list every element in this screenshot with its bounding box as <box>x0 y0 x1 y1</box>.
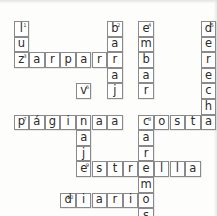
cell-letter: j <box>108 85 122 97</box>
crossword-cell[interactable]: r <box>138 146 154 162</box>
crossword-page: 1l2b4e5duame3zarparrbraae6vjrch7páginaa8… <box>0 0 217 216</box>
crossword-cell[interactable]: e <box>138 161 154 177</box>
crossword-cell[interactable]: t <box>107 161 123 177</box>
crossword-cell[interactable]: i <box>76 193 92 209</box>
crossword-cell[interactable]: a <box>138 68 154 84</box>
crossword-cell[interactable]: r <box>201 52 217 68</box>
crossword-cell[interactable]: l <box>170 161 186 177</box>
cell-letter: a <box>139 132 153 144</box>
crossword-cell[interactable]: m <box>138 37 154 53</box>
cell-letter: r <box>139 85 153 97</box>
crossword-cell[interactable]: i <box>60 115 76 131</box>
cell-letter: z <box>15 54 29 66</box>
cell-letter: l <box>171 163 185 175</box>
crossword-cell[interactable]: 9e <box>76 161 92 177</box>
crossword-cell[interactable]: 10d <box>60 193 76 209</box>
crossword-cell[interactable]: u <box>14 37 30 53</box>
crossword-cell[interactable]: j <box>107 83 123 99</box>
crossword-cell[interactable]: e <box>201 37 217 53</box>
cell-letter: v <box>77 85 91 97</box>
cell-letter: a <box>108 39 122 51</box>
crossword-cell[interactable]: r <box>123 161 139 177</box>
crossword-cell[interactable]: a <box>201 115 217 131</box>
cell-letter: u <box>15 39 29 51</box>
crossword-cell[interactable]: a <box>76 130 92 146</box>
cell-letter: i <box>61 117 75 129</box>
cell-letter: s <box>139 210 153 216</box>
crossword-cell[interactable]: j <box>76 146 92 162</box>
crossword-cell[interactable]: 4e <box>138 21 154 37</box>
crossword-grid[interactable]: 1l2b4e5duame3zarparrbraae6vjrch7páginaa8… <box>0 0 217 216</box>
crossword-cell[interactable]: l <box>154 161 170 177</box>
crossword-cell[interactable]: b <box>138 52 154 68</box>
crossword-cell[interactable]: 6v <box>76 83 92 99</box>
crossword-cell[interactable]: s <box>138 208 154 216</box>
crossword-cell[interactable]: s <box>170 115 186 131</box>
crossword-cell[interactable]: r <box>138 83 154 99</box>
crossword-cell[interactable]: n <box>76 115 92 131</box>
crossword-cell[interactable]: 1l <box>14 21 30 37</box>
crossword-cell[interactable]: 7p <box>14 115 30 131</box>
cell-letter: e <box>77 163 91 175</box>
crossword-cell[interactable]: a <box>92 115 108 131</box>
cell-letter: e <box>202 39 216 51</box>
crossword-cell[interactable]: o <box>154 115 170 131</box>
cell-letter: a <box>139 70 153 82</box>
cell-letter: g <box>46 117 60 129</box>
crossword-cell[interactable]: i <box>123 193 139 209</box>
crossword-cell[interactable]: a <box>29 52 45 68</box>
crossword-cell[interactable]: a <box>92 193 108 209</box>
crossword-cell[interactable]: 5d <box>201 21 217 37</box>
cell-letter: a <box>93 117 107 129</box>
crossword-cell[interactable]: á <box>29 115 45 131</box>
cell-letter: a <box>77 132 91 144</box>
cell-letter: c <box>202 85 216 97</box>
crossword-cell[interactable]: 2b <box>107 21 123 37</box>
crossword-cell[interactable]: t <box>185 115 201 131</box>
cell-letter: e <box>139 163 153 175</box>
cell-letter: d <box>61 195 75 207</box>
cell-letter: j <box>77 148 91 160</box>
crossword-cell[interactable]: e <box>201 68 217 84</box>
crossword-cell[interactable]: g <box>45 115 61 131</box>
cell-letter: c <box>139 117 153 129</box>
crossword-cell[interactable]: h <box>201 99 217 115</box>
cell-letter: t <box>108 163 122 175</box>
cell-letter: a <box>93 195 107 207</box>
crossword-cell[interactable]: r <box>92 52 108 68</box>
cell-letter: o <box>139 195 153 207</box>
crossword-cell[interactable]: a <box>107 37 123 53</box>
cell-letter: a <box>108 70 122 82</box>
crossword-cell[interactable]: 3z <box>14 52 30 68</box>
cell-letter: á <box>30 117 44 129</box>
crossword-cell[interactable]: 8c <box>138 115 154 131</box>
cell-letter: r <box>93 54 107 66</box>
cell-letter: l <box>15 23 29 35</box>
crossword-cell[interactable]: o <box>138 193 154 209</box>
cell-letter: r <box>202 54 216 66</box>
crossword-cell[interactable]: s <box>92 161 108 177</box>
crossword-cell[interactable]: c <box>201 83 217 99</box>
cell-letter: r <box>108 195 122 207</box>
crossword-cell[interactable]: a <box>107 115 123 131</box>
cell-letter: s <box>171 117 185 129</box>
cell-letter: i <box>124 195 138 207</box>
crossword-cell[interactable]: a <box>107 68 123 84</box>
cell-letter: b <box>139 54 153 66</box>
cell-letter: t <box>186 117 200 129</box>
crossword-cell[interactable]: m <box>138 177 154 193</box>
cell-letter: e <box>202 70 216 82</box>
cell-letter: r <box>139 148 153 160</box>
cell-letter: a <box>108 117 122 129</box>
crossword-cell[interactable]: r <box>45 52 61 68</box>
cell-letter: r <box>124 163 138 175</box>
crossword-cell[interactable]: r <box>107 193 123 209</box>
crossword-cell[interactable]: p <box>60 52 76 68</box>
crossword-cell[interactable]: a <box>76 52 92 68</box>
crossword-cell[interactable]: a <box>185 161 201 177</box>
cell-letter: r <box>46 54 60 66</box>
cell-letter: d <box>202 23 216 35</box>
cell-letter: h <box>202 101 216 113</box>
crossword-cell[interactable]: r <box>107 52 123 68</box>
crossword-cell[interactable]: a <box>138 130 154 146</box>
